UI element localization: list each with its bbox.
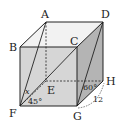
label-C: C — [70, 35, 78, 48]
angle-45-label: 45° — [28, 97, 42, 106]
cube-diagram: A D B C E H F G x 45° 60° 12 — [0, 0, 123, 129]
angle-x-label: x — [25, 87, 30, 96]
label-B: B — [9, 41, 17, 54]
label-A: A — [40, 8, 50, 21]
label-G: G — [73, 110, 82, 123]
label-F: F — [9, 107, 17, 120]
label-E: E — [47, 84, 55, 97]
angle-60-label: 60° — [83, 83, 97, 92]
length-12-label: 12 — [93, 95, 103, 104]
label-D: D — [101, 8, 110, 21]
label-H: H — [106, 75, 116, 88]
